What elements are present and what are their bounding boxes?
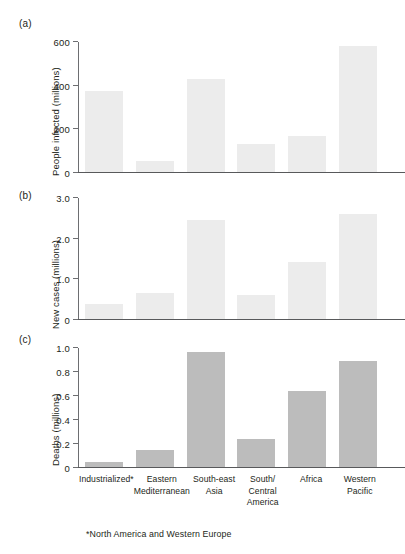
bar [85, 304, 123, 319]
bar [187, 79, 225, 172]
panel-a-bars [79, 42, 383, 172]
panel-b-tick [73, 278, 78, 279]
panel-a-letter: (a) [19, 18, 32, 29]
bar [237, 144, 275, 172]
panel-c-plot-area: 00.20.40.60.81.0 [78, 348, 383, 468]
bar [288, 136, 326, 172]
panel-c-tick [73, 419, 78, 420]
bar [237, 439, 275, 467]
panel-b: (b) New cases (millions) 01.02.03.0 [0, 182, 403, 332]
panel-c-tick-label: 0.4 [56, 415, 70, 426]
panel-b-tick-label: 0 [65, 315, 70, 326]
x-axis-label: South-eastAsia [190, 474, 239, 497]
bar [85, 462, 123, 467]
panel-c-tick [73, 371, 78, 372]
panel-a-tick [73, 85, 78, 86]
panel-b-tick-label: 2.0 [56, 233, 70, 244]
bar [187, 220, 225, 319]
panel-a-tick-label: 600 [54, 37, 70, 48]
x-axis-category-labels: Industrialized*EasternMediterraneanSouth… [79, 474, 384, 509]
bar [339, 46, 377, 172]
bar [288, 391, 326, 467]
panel-a-plot-area: 0200400600 [78, 42, 383, 173]
panel-b-tick-label: 3.0 [56, 193, 70, 204]
bar [339, 214, 377, 319]
bar [237, 295, 275, 319]
panel-b-plot-area: 01.02.03.0 [78, 198, 383, 320]
footnote: *North America and Western Europe [86, 529, 231, 539]
panel-a-tick-label: 0 [65, 168, 70, 179]
panel-c-y-axis-title: Deaths (millions) [50, 394, 61, 466]
panel-c-tick [73, 395, 78, 396]
panel-a-tick [73, 41, 78, 42]
panel-a-tick [73, 172, 78, 173]
panel-a-tick-label: 200 [54, 124, 70, 135]
bar [136, 161, 174, 172]
bar [136, 293, 174, 319]
bar [85, 91, 123, 172]
panel-b-tick [73, 238, 78, 239]
panel-c-tick-label: 0 [65, 463, 70, 474]
x-axis-label: WesternPacific [335, 474, 384, 497]
bar [288, 262, 326, 319]
panel-a: (a) People infected (millions) 020040060… [0, 10, 403, 188]
panel-c-letter: (c) [19, 334, 31, 345]
panel-a-tick-label: 400 [54, 80, 70, 91]
panel-c-tick [73, 347, 78, 348]
x-axis-label: South/CentralAmerica [238, 474, 287, 509]
panel-b-letter: (b) [19, 190, 32, 201]
panel-c-tick-label: 0.6 [56, 391, 70, 402]
panel-c-tick-label: 0.2 [56, 439, 70, 450]
bar [339, 361, 377, 467]
panel-a-tick [73, 128, 78, 129]
panel-b-tick [73, 197, 78, 198]
panel-b-tick [73, 319, 78, 320]
panel-c-tick-label: 0.8 [56, 367, 70, 378]
panel-b-tick-label: 1.0 [56, 274, 70, 285]
bar [187, 352, 225, 467]
bar [136, 450, 174, 467]
panel-c-tick [73, 467, 78, 468]
x-axis-label: Africa [287, 474, 336, 486]
panel-b-bars [79, 198, 383, 319]
panel-c-bars [79, 348, 383, 467]
x-axis-label: Industrialized* [79, 474, 134, 486]
x-axis-label: EasternMediterranean [134, 474, 190, 497]
panel-c-tick [73, 443, 78, 444]
panel-c: (c) Deaths (millions) 00.20.40.60.81.0 [0, 326, 403, 491]
panel-c-tick-label: 1.0 [56, 343, 70, 354]
